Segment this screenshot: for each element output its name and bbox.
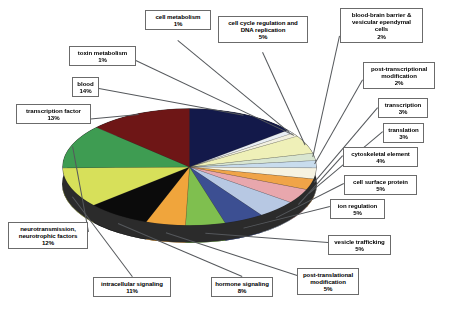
- callout-transcription[interactable]: transcription 3%: [378, 98, 428, 118]
- callout-toxin-metabolism[interactable]: toxin metabolism 1%: [69, 46, 136, 66]
- pie-chart-figure: cell metabolism 1% toxin metabolism 1% b…: [0, 0, 465, 311]
- callout-percent: 11%: [96, 287, 168, 294]
- callout-label-text-2: modification: [300, 278, 356, 285]
- callout-cell-surface-protein[interactable]: cell surface protein 5%: [344, 175, 417, 195]
- callout-percent: 2%: [343, 33, 420, 40]
- callout-neurotransmission[interactable]: neurotransmission, neurotrophic factors …: [8, 222, 88, 249]
- callout-label-text: blood-brain barrier &: [352, 11, 412, 18]
- callout-percent: 14%: [75, 87, 96, 94]
- callout-percent: 3%: [381, 108, 425, 115]
- callout-label-text-2: vesicular ependymal: [343, 18, 420, 25]
- callout-post-translational[interactable]: post-translational modification 5%: [297, 268, 359, 295]
- callout-cytoskeletal-element[interactable]: cytoskeletal element 4%: [343, 147, 418, 167]
- callout-cell-cycle[interactable]: cell cycle regulation and DNA replicatio…: [218, 16, 308, 43]
- callout-label-text-2: modification: [366, 72, 432, 79]
- callout-percent: 1%: [148, 20, 208, 27]
- callout-label-text: transcription: [385, 101, 422, 108]
- callout-translation[interactable]: translation 3%: [383, 123, 424, 143]
- callout-percent: 13%: [19, 114, 88, 121]
- callout-post-transcriptional[interactable]: post-transcriptional modification 2%: [363, 62, 435, 89]
- callout-cell-metabolism[interactable]: cell metabolism 1%: [145, 10, 211, 30]
- callout-blood-brain-barrier[interactable]: blood-brain barrier & vesicular ependyma…: [340, 8, 423, 43]
- callout-label-text: cell cycle regulation and: [228, 19, 298, 26]
- callout-label-text: post-translational: [303, 271, 353, 278]
- callout-label-text: post-transcriptional: [371, 65, 427, 72]
- callout-intracellular-signaling[interactable]: intracellular signaling 11%: [93, 277, 171, 297]
- callout-hormone-signaling[interactable]: hormone signaling 8%: [211, 277, 273, 297]
- callout-percent: 8%: [214, 287, 270, 294]
- callout-percent: 5%: [333, 209, 382, 216]
- callout-transcription-factor[interactable]: transcription factor 13%: [16, 104, 91, 124]
- callout-percent: 2%: [366, 79, 432, 86]
- callout-percent: 1%: [72, 56, 133, 63]
- callout-label-text: toxin metabolism: [78, 49, 127, 56]
- callout-percent: 4%: [346, 157, 415, 164]
- callout-percent: 5%: [331, 245, 388, 252]
- callout-percent: 3%: [386, 133, 421, 140]
- callout-percent: 12%: [11, 239, 85, 246]
- callout-label-text: hormone signaling: [215, 280, 269, 287]
- callout-label-text: blood: [77, 80, 93, 87]
- callout-percent: 5%: [221, 33, 305, 40]
- callout-label-text: translation: [388, 126, 419, 133]
- callout-label-text: transcription factor: [26, 107, 81, 114]
- leader-line: [312, 36, 340, 157]
- callout-label-text: cell metabolism: [156, 13, 201, 20]
- callout-label-text: vesicle trafficking: [334, 238, 385, 245]
- callout-ion-regulation[interactable]: ion regulation 5%: [330, 199, 385, 219]
- callout-percent: 5%: [347, 185, 414, 192]
- callout-vesicle-trafficking[interactable]: vesicle trafficking 5%: [328, 235, 391, 255]
- callout-label-text: cell surface protein: [353, 178, 408, 185]
- callout-label-text-2: neurotrophic factors: [11, 232, 85, 239]
- callout-label-text: neurotransmission,: [20, 225, 76, 232]
- callout-label-text: ion regulation: [338, 202, 378, 209]
- callout-label-text: intracellular signaling: [101, 280, 163, 287]
- callout-blood[interactable]: blood 14%: [72, 77, 99, 97]
- pie-top-surface: [62, 108, 317, 226]
- callout-label-text-3: cells: [343, 25, 420, 32]
- callout-label-text: cytoskeletal element: [351, 150, 410, 157]
- callout-percent: 5%: [300, 285, 356, 292]
- callout-label-text-2: DNA replication: [221, 26, 305, 33]
